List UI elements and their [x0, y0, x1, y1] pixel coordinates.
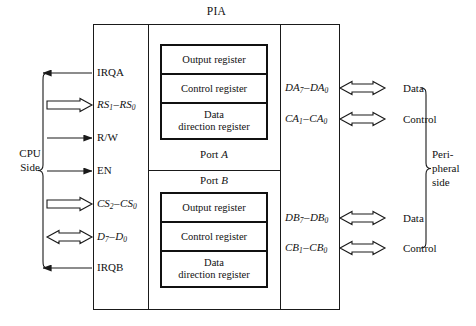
arrow-da-bus-bidir — [340, 82, 385, 95]
peripheral-side-brace — [421, 88, 431, 248]
arrow-db-bus-bidir — [340, 212, 385, 225]
arrow-ca-bus-bidir — [340, 113, 385, 126]
diagram-canvas: PIA Output register Control register Dat… — [0, 0, 476, 326]
connector-layer — [0, 0, 476, 326]
arrow-rs-bus — [47, 99, 92, 112]
arrow-cs-bus — [47, 198, 92, 211]
arrow-cb-bus-bidir — [340, 242, 385, 255]
arrow-d-bus-bidir — [47, 231, 92, 244]
